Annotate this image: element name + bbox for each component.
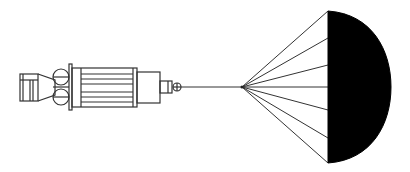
shroud-lines (242, 11, 328, 163)
main-body (72, 68, 137, 107)
diagram-canvas (0, 0, 410, 172)
apex-knot (241, 86, 244, 89)
upper-module (137, 72, 160, 103)
connector (160, 81, 181, 93)
parachute-canopy (328, 11, 391, 163)
propellant-tanks (53, 69, 69, 105)
spacecraft-parachute-diagram (0, 0, 410, 172)
engine-nozzle (20, 74, 55, 101)
